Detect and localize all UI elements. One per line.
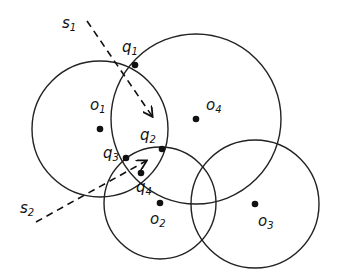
label-o2: o2 [150,210,166,229]
intersection-point-q1 [132,62,139,69]
center-point-o4 [193,116,200,123]
intersection-point-q2 [159,146,166,153]
label-q3: q3 [103,144,119,163]
label-s2: s2 [20,199,34,218]
intersection-point-q3 [123,155,130,162]
label-q4: q4 [136,178,152,197]
label-s1: s1 [62,14,76,33]
dashed-arrow-s2 [36,161,146,222]
center-point-o3 [252,201,259,208]
label-o4: o4 [206,96,222,115]
label-o3: o3 [258,212,274,231]
label-o1: o1 [90,96,106,115]
center-point-o2 [157,200,164,207]
label-q2: q2 [140,126,156,145]
diagram-canvas: o1o2o3o4s1s2q1q2q3q4 [0,0,341,279]
label-q1: q1 [122,38,138,57]
center-point-o1 [97,126,104,133]
intersection-point-q4 [138,170,145,177]
